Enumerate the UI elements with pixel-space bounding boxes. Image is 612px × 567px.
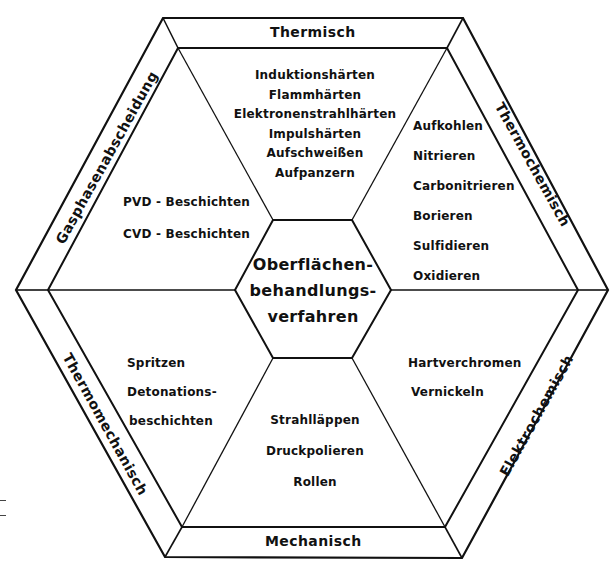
process-item: Carbonitrieren [413,171,515,201]
process-item: Nitrieren [413,141,515,171]
center-title-line-3: verfahren [236,304,390,330]
process-item: beschichten [127,407,217,436]
process-item: Detonations- [127,378,217,407]
sector-thermomechanisch: Spritzen Detonations- beschichten [127,349,217,436]
process-item: Elektronenstrahlhärten [225,105,405,125]
process-item: Aufkohlen [413,111,515,141]
process-item: Borieren [413,201,515,231]
process-item: Rollen [240,467,390,498]
process-item: Aufpanzern [225,164,405,184]
sector-mechanisch: Strahlläppen Druckpolieren Rollen [240,405,390,498]
process-item: PVD - Beschichten [123,186,250,218]
process-item: CVD - Beschichten [123,218,250,250]
process-item: Spritzen [127,349,217,378]
process-item: Oxidieren [413,261,515,291]
process-item: Vernickeln [408,378,521,407]
process-item: Hartverchromen [408,349,521,378]
center-title: Oberflächen- behandlungs- verfahren [236,252,390,330]
center-title-line-2: behandlungs- [236,278,390,304]
process-item: Strahlläppen [240,405,390,436]
process-item: Aufschweißen [225,144,405,164]
process-item: Induktionshärten [225,66,405,86]
margin-mark [0,515,6,516]
process-item: Flammhärten [225,86,405,106]
sector-thermisch: Induktionshärten Flammhärten Elektronens… [225,66,405,183]
center-title-line-1: Oberflächen- [236,252,390,278]
process-item: Sulfidieren [413,231,515,261]
sector-thermochemisch: Aufkohlen Nitrieren Carbonitrieren Borie… [413,111,515,291]
category-thermisch: Thermisch [270,24,356,40]
process-item: Impulshärten [225,125,405,145]
margin-mark [0,500,6,501]
category-mechanisch: Mechanisch [265,533,362,549]
process-item: Druckpolieren [240,436,390,467]
sector-elektrochemisch: Hartverchromen Vernickeln [408,349,521,407]
sector-gasphasenabscheidung: PVD - Beschichten CVD - Beschichten [123,186,250,250]
